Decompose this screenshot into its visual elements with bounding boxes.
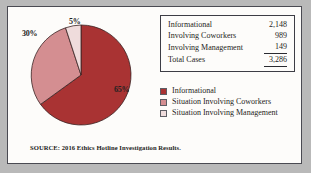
pie-chart-svg (29, 23, 133, 127)
table-row: Involving Coworkers 989 (168, 30, 287, 41)
case-counts-table: Informational 2,148 Involving Coworkers … (168, 19, 287, 67)
table-cell-label: Involving Management (168, 42, 264, 54)
table-row-total: Total Cases 3,286 (168, 54, 287, 66)
table-row: Informational 2,148 (168, 19, 287, 30)
legend: Informational Situation Involving Cowork… (160, 87, 300, 121)
figure-card: 5% 30% 65% Informational 2,148 Involving… (7, 6, 302, 164)
legend-item-coworkers: Situation Involving Coworkers (160, 98, 300, 106)
table-cell-value: 989 (264, 30, 287, 41)
table-cell-label: Involving Coworkers (168, 30, 264, 41)
table-cell-total-value: 3,286 (264, 54, 287, 66)
pie-label-coworkers: 30% (22, 29, 37, 38)
pie-label-informational: 65% (114, 85, 129, 94)
legend-swatch-icon (160, 99, 167, 106)
table-cell-total-label: Total Cases (168, 54, 264, 66)
table-row: Involving Management 149 (168, 42, 287, 54)
pie-chart: 5% 30% 65% (22, 17, 162, 137)
data-table: Informational 2,148 Involving Coworkers … (160, 15, 295, 72)
legend-label: Situation Involving Management (172, 109, 278, 117)
source-note: SOURCE: 2016 Ethics Hotline Investigatio… (30, 144, 181, 151)
legend-label: Situation Involving Coworkers (172, 98, 271, 106)
legend-item-informational: Informational (160, 87, 300, 95)
table-cell-value: 2,148 (264, 19, 287, 30)
table-cell-label: Informational (168, 19, 264, 30)
legend-label: Informational (172, 87, 216, 95)
pie-label-management: 5% (69, 17, 81, 26)
legend-swatch-icon (160, 88, 167, 95)
legend-item-management: Situation Involving Management (160, 109, 300, 117)
legend-swatch-icon (160, 110, 167, 117)
table-cell-value: 149 (264, 42, 287, 54)
